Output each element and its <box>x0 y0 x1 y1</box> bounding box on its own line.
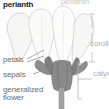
label-sepals: sepals <box>3 71 26 79</box>
label-generalized-flower: generalized flower <box>3 86 43 103</box>
calyx-cup <box>52 61 73 92</box>
stem <box>59 88 64 109</box>
label-generalized-line2: flower <box>3 94 43 102</box>
generalized-flower-figure: perianth perianth petals sepals generali… <box>0 0 109 109</box>
label-petals: petals <box>3 56 24 64</box>
label-perianth: perianth <box>3 1 33 9</box>
label-calyx: calyx <box>93 70 109 78</box>
label-perianth-top-cropped: perianth <box>61 0 89 6</box>
label-corolla: corolla <box>90 40 109 48</box>
